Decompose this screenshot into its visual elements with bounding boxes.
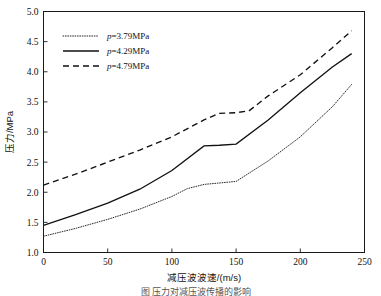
y-tick-label: 5.0 (27, 7, 39, 17)
chart-svg: 1.01.52.02.53.03.54.04.55.0 050100150200… (0, 0, 381, 296)
figure-caption: 图 压力对减压波传播的影响 (141, 286, 252, 296)
x-tick-label: 250 (357, 257, 372, 267)
x-axis-label: 减压波波速/(m/s) (167, 272, 241, 283)
x-tick-label: 50 (103, 257, 113, 267)
y-tick-label: 1.0 (27, 248, 39, 258)
y-tick-label: 2.5 (27, 158, 39, 168)
legend-item-label: p=4.79MPa (106, 61, 149, 71)
x-tick-label: 200 (293, 257, 308, 267)
y-tick-label: 4.0 (27, 67, 39, 77)
x-tick-label: 150 (229, 257, 244, 267)
x-tick-label: 0 (41, 257, 46, 267)
figure-container: 1.01.52.02.53.03.54.04.55.0 050100150200… (0, 0, 381, 296)
y-tick-label: 3.5 (27, 97, 39, 107)
x-tick-label: 100 (165, 257, 180, 267)
legend-item-label: p=3.79MPa (106, 31, 149, 41)
legend-item-label: p=4.29MPa (106, 46, 149, 56)
y-tick-label: 1.5 (27, 218, 39, 228)
y-tick-label: 4.5 (27, 37, 39, 47)
chart-background (0, 0, 381, 296)
y-tick-label: 3.0 (27, 127, 39, 137)
y-axis-label: 压力/MPa (4, 110, 15, 153)
y-tick-label: 2.0 (27, 188, 39, 198)
